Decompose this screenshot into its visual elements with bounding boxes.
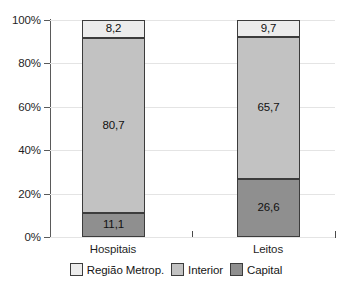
y-tick-mark-0 bbox=[44, 237, 50, 238]
y-axis-tick-label: 80% bbox=[18, 57, 41, 69]
x-axis-category-label-hospitais: Hospitais bbox=[90, 243, 136, 255]
y-axis-tick-label: 60% bbox=[18, 101, 41, 113]
y-tick-mark-80 bbox=[44, 63, 50, 64]
bar-segment-value-label: 9,7 bbox=[261, 23, 277, 35]
bar-stack: 11,1 80,7 8,2 bbox=[82, 20, 145, 237]
legend-label: Região Metrop. bbox=[87, 264, 164, 276]
y-axis-tick-label: 20% bbox=[18, 188, 41, 200]
gridline-0: 0% bbox=[50, 237, 335, 238]
x-axis-end-tick bbox=[335, 231, 336, 238]
legend-label: Interior bbox=[188, 264, 223, 276]
bar-segment-value-label: 8,2 bbox=[106, 23, 122, 35]
y-tick-mark-20 bbox=[44, 194, 50, 195]
legend-swatch-icon bbox=[230, 263, 243, 276]
y-axis-tick-label: 40% bbox=[18, 144, 41, 156]
bar-segment-value-label: 65,7 bbox=[258, 102, 280, 114]
chart-legend: Região Metrop. Interior Capital bbox=[0, 263, 352, 276]
bar-segment-hospitais-regiao-metrop[interactable]: 8,2 bbox=[82, 20, 145, 38]
legend-swatch-icon bbox=[171, 263, 184, 276]
y-tick-mark-100 bbox=[44, 20, 50, 21]
y-tick-mark-40 bbox=[44, 150, 50, 151]
y-axis-tick-label: 0% bbox=[25, 231, 41, 243]
legend-label: Capital bbox=[247, 264, 282, 276]
bar-segment-hospitais-capital[interactable]: 11,1 bbox=[82, 213, 145, 237]
y-axis-tick-label: 100% bbox=[12, 14, 41, 26]
bar-group-leitos: 26,6 65,7 9,7 bbox=[237, 20, 300, 237]
bar-segment-value-label: 11,1 bbox=[103, 219, 124, 231]
bar-segment-hospitais-interior[interactable]: 80,7 bbox=[82, 38, 145, 213]
plot-area: 100% 80% 60% 40% 20% 0% 11,1 bbox=[50, 20, 335, 237]
legend-item-regiao-metrop[interactable]: Região Metrop. bbox=[70, 263, 164, 276]
x-axis-category-label-leitos: Leitos bbox=[253, 243, 283, 255]
y-tick-mark-60 bbox=[44, 107, 50, 108]
legend-item-interior[interactable]: Interior bbox=[171, 263, 223, 276]
bar-segment-leitos-capital[interactable]: 26,6 bbox=[237, 179, 300, 237]
bar-segment-leitos-regiao-metrop[interactable]: 9,7 bbox=[237, 20, 300, 37]
legend-item-capital[interactable]: Capital bbox=[230, 263, 282, 276]
bar-stack: 26,6 65,7 9,7 bbox=[237, 20, 300, 237]
legend-swatch-icon bbox=[70, 263, 83, 276]
bar-group-hospitais: 11,1 80,7 8,2 bbox=[82, 20, 145, 237]
bar-segment-value-label: 80,7 bbox=[103, 120, 125, 132]
bar-segment-leitos-interior[interactable]: 65,7 bbox=[237, 37, 300, 180]
bar-segment-value-label: 26,6 bbox=[258, 202, 280, 214]
stacked-bar-chart: 100% 80% 60% 40% 20% 0% 11,1 bbox=[0, 0, 352, 286]
